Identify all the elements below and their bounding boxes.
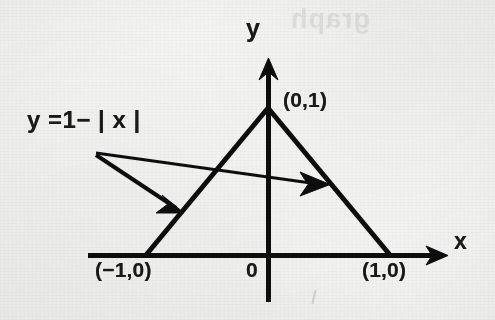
left-intercept-label: (−1,0) xyxy=(95,258,152,282)
curve-left-branch xyxy=(146,108,268,255)
x-axis-label: x xyxy=(454,228,467,255)
curve-right-branch xyxy=(268,108,390,255)
right-intercept-label: (1,0) xyxy=(362,258,406,282)
equation-label: y =1− | x | xyxy=(27,106,141,134)
y-axis-label: y xyxy=(246,14,260,43)
apex-point-label: (0,1) xyxy=(283,88,327,112)
origin-label: 0 xyxy=(246,258,258,282)
figure-container: graph xyxy=(0,0,495,320)
